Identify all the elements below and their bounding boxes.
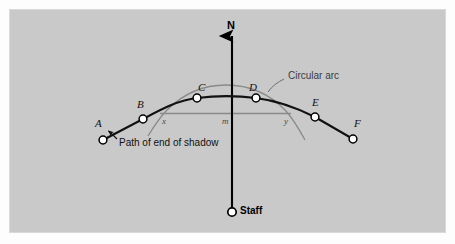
- north-label: N: [227, 20, 235, 31]
- point-label-F: F: [354, 118, 361, 129]
- point-label-D: D: [249, 82, 257, 93]
- point-marker-F[interactable]: [349, 135, 357, 143]
- circular-arc-path: [148, 85, 305, 140]
- figure-root: A B C D E F x m y N Staff Circular arc P…: [0, 0, 455, 244]
- point-marker-E[interactable]: [311, 113, 319, 121]
- segment-label-x: x: [162, 117, 166, 126]
- circular-arc-label: Circular arc: [288, 71, 339, 81]
- point-label-B: B: [137, 99, 144, 110]
- point-marker-D[interactable]: [252, 94, 260, 102]
- point-label-C: C: [198, 82, 205, 93]
- circular-arc-leader: [268, 79, 284, 92]
- point-marker-C[interactable]: [193, 94, 201, 102]
- staff-base-marker[interactable]: [228, 208, 236, 216]
- point-marker-B[interactable]: [139, 115, 147, 123]
- shadow-path-label: Path of end of shadow: [119, 138, 219, 148]
- point-label-A: A: [95, 118, 102, 129]
- staff-label: Staff: [240, 206, 262, 216]
- point-label-E: E: [312, 97, 319, 108]
- segment-label-y: y: [284, 117, 288, 126]
- segment-label-m: m: [222, 117, 229, 126]
- point-marker-A[interactable]: [99, 136, 107, 144]
